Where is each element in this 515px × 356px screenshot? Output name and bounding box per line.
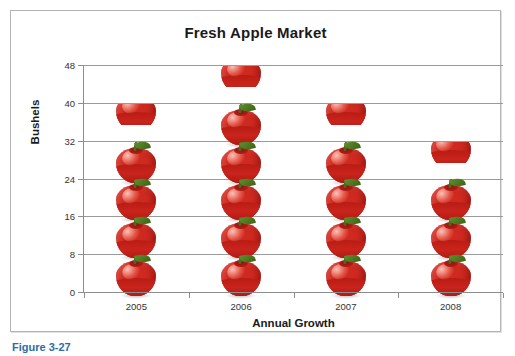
apple-icon-partial — [220, 66, 262, 107]
gridline — [84, 65, 503, 66]
apple-icon — [220, 217, 262, 258]
y-tick-label: 32 — [49, 135, 75, 146]
apple-icon — [220, 104, 262, 145]
chart-frame: Fresh Apple Market Bushels 081624324048 … — [10, 10, 501, 332]
apple-icon — [430, 255, 472, 296]
y-tick-label: 40 — [49, 97, 75, 108]
y-axis-title: Bushels — [29, 77, 41, 167]
apple-icon — [325, 179, 367, 220]
y-tick-mark — [78, 292, 83, 293]
x-axis-title: Annual Growth — [84, 317, 503, 329]
apple-clip — [325, 104, 367, 125]
apple-icon — [220, 142, 262, 183]
apple-body — [431, 142, 471, 163]
apple-body — [116, 104, 156, 125]
chart-title: Fresh Apple Market — [11, 24, 500, 41]
apple-clip — [430, 142, 472, 163]
apple-icon — [325, 142, 367, 183]
x-tick-label: 2006 — [211, 301, 271, 312]
y-tick-mark — [78, 179, 83, 180]
x-tick-mark — [189, 293, 190, 298]
y-tick-label: 24 — [49, 173, 75, 184]
x-tick-mark — [294, 293, 295, 298]
y-axis-tick-labels: 081624324048 — [45, 65, 75, 292]
apple-icon — [115, 179, 157, 220]
figure-caption: Figure 3-27 — [12, 341, 71, 354]
x-tick-label: 2007 — [316, 301, 376, 312]
y-tick-label: 48 — [49, 60, 75, 71]
apple-icon — [115, 255, 157, 296]
apple-icon — [430, 217, 472, 258]
apple-icon — [325, 255, 367, 296]
apple-icon — [115, 217, 157, 258]
apple-icon — [430, 179, 472, 220]
apple-inner — [325, 104, 367, 125]
y-tick-mark — [78, 254, 83, 255]
apple-icon-partial — [325, 104, 367, 145]
apple-icon — [220, 179, 262, 220]
apple-icon — [220, 255, 262, 296]
y-tick-label: 16 — [49, 211, 75, 222]
x-tick-mark — [84, 293, 85, 298]
x-tick-label: 2005 — [106, 301, 166, 312]
apple-icon — [325, 217, 367, 258]
y-tick-mark — [78, 216, 83, 217]
y-tick-label: 0 — [49, 287, 75, 298]
apple-body — [221, 66, 261, 87]
plot-area — [84, 65, 503, 292]
apple-clip — [220, 66, 262, 87]
y-tick-mark — [78, 103, 83, 104]
y-tick-mark — [78, 141, 83, 142]
apple-clip — [115, 104, 157, 125]
apple-icon-partial — [115, 104, 157, 145]
x-tick-mark — [398, 293, 399, 298]
apple-icon — [115, 142, 157, 183]
y-tick-label: 8 — [49, 249, 75, 260]
apple-inner — [220, 66, 262, 87]
apple-icon-partial — [430, 142, 472, 183]
y-tick-mark — [78, 65, 83, 66]
x-tick-mark — [503, 293, 504, 298]
apple-body — [326, 104, 366, 125]
x-tick-label: 2008 — [421, 301, 481, 312]
apple-inner — [430, 142, 472, 163]
apple-inner — [115, 104, 157, 125]
